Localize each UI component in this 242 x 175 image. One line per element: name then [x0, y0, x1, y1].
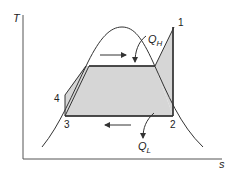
- q-high-label: QH: [148, 33, 163, 48]
- point-label-2: 2: [170, 119, 176, 130]
- q-low-label: QL: [138, 140, 151, 155]
- y-axis-label: T: [13, 12, 21, 24]
- q-low-arrow: [143, 113, 154, 138]
- q-high-arrow: [135, 36, 146, 62]
- point-label-3: 3: [64, 119, 70, 130]
- point-label-1: 1: [178, 17, 184, 28]
- point-label-4: 4: [54, 93, 60, 104]
- ts-diagram: T s 1 2 3 4 QH QL: [0, 0, 242, 175]
- x-axis-label: s: [219, 158, 225, 170]
